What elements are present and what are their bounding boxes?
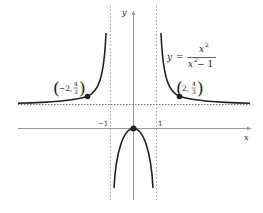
equation-denominator: x <box>188 59 193 69</box>
tick-label-neg1: −1 <box>98 120 108 128</box>
y-axis-label: y <box>121 8 127 17</box>
equation-label: y = x 2 x 2 − 1 <box>166 41 216 69</box>
label-right-num: 4 <box>192 80 196 87</box>
point-origin <box>131 126 137 132</box>
tick-label-pos1: 1 <box>158 120 162 128</box>
function-graph: y x −1 1 y = x 2 x 2 − 1 ( −2, 4 3 ) ( 2… <box>0 0 263 213</box>
label-right-point: ( 2, 4 3 ) <box>176 78 204 98</box>
label-left-num: 4 <box>74 80 78 87</box>
label-right-den: 3 <box>192 88 196 95</box>
label-left-x: −2, <box>59 84 72 93</box>
x-axis-arrow <box>247 127 252 130</box>
label-right-x: 2, <box>182 84 189 93</box>
x-axis-label: x <box>244 133 249 142</box>
y-axis-arrow <box>132 10 135 15</box>
label-left-den: 3 <box>74 88 78 95</box>
equation-numerator-exp: 2 <box>205 41 209 48</box>
equation-lhs: y <box>166 52 173 62</box>
label-left-point: ( −2, 4 3 ) <box>53 78 86 98</box>
equation-numerator: x <box>199 44 204 54</box>
equation-equals: = <box>176 52 184 62</box>
paren-close: ) <box>197 78 204 98</box>
paren-close: ) <box>79 78 86 98</box>
equation-denominator-rest: − 1 <box>197 59 213 69</box>
